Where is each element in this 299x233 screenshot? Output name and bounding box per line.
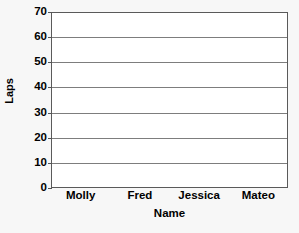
y-tick-label: 0 [16,182,47,194]
y-tick-label: 70 [16,6,47,18]
y-tick-mark [48,62,52,63]
bar-chart: Laps 010203040506070 MollyFredJessicaMat… [0,0,299,233]
y-tick-label: 60 [16,31,47,43]
y-tick-mark [48,138,52,139]
gridline [52,113,287,114]
bars-layer [52,13,287,187]
gridline [52,37,287,38]
y-tick-label: 30 [16,107,47,119]
y-tick-label: 20 [16,132,47,144]
gridline [52,87,287,88]
x-tick-label: Jessica [178,190,220,202]
plot-area [51,12,288,188]
y-tick-mark [48,87,52,88]
y-tick-label: 50 [16,57,47,69]
x-tick-label: Molly [66,190,95,202]
x-tick-label: Fred [127,190,152,202]
gridline [52,62,287,63]
y-tick-label: 10 [16,157,47,169]
y-tick-mark [48,163,52,164]
gridline [52,163,287,164]
y-axis-title: Laps [3,71,15,111]
y-axis-tick-labels: 010203040506070 [16,12,47,188]
x-tick-label: Mateo [242,190,275,202]
y-tick-mark [48,37,52,38]
gridline [52,138,287,139]
y-tick-label: 40 [16,82,47,94]
y-tick-mark [48,188,52,189]
y-tick-mark [48,12,52,13]
x-axis-title: Name [51,207,288,219]
x-axis-tick-labels: MollyFredJessicaMateo [51,190,288,206]
y-tick-mark [48,113,52,114]
